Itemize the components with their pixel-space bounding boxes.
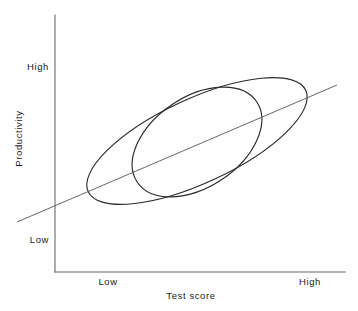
- y-axis-tick-high: High: [27, 61, 49, 72]
- tick-labels-group: High Low Low High: [27, 61, 321, 287]
- y-axis-title: Productivity: [13, 110, 24, 166]
- x-axis-tick-low: Low: [98, 276, 117, 287]
- outer-data-envelope: [70, 52, 323, 230]
- regression-line: [17, 85, 337, 222]
- inner-data-envelope: [112, 64, 282, 219]
- correlation-ellipse-chart: High Low Low High Productivity Test scor…: [0, 0, 358, 311]
- chart-canvas: High Low Low High Productivity Test scor…: [0, 0, 358, 311]
- x-axis-title: Test score: [166, 290, 215, 301]
- y-axis-tick-low: Low: [30, 234, 49, 245]
- x-axis-tick-high: High: [299, 276, 321, 287]
- data-group: [17, 52, 337, 230]
